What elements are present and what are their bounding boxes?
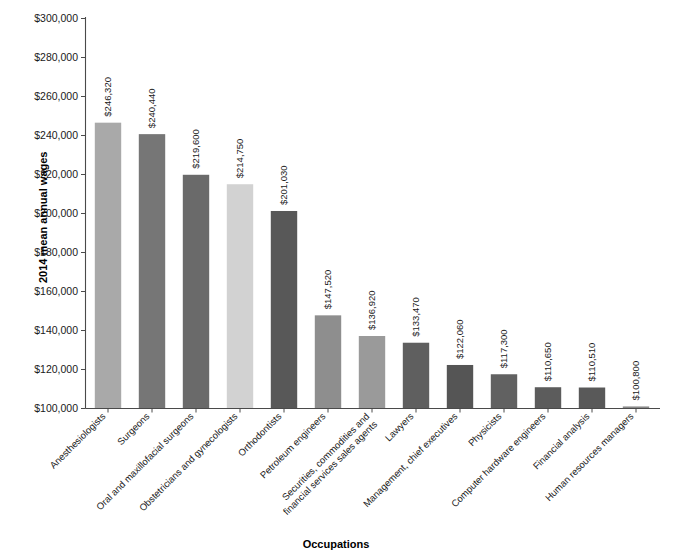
bar (535, 387, 561, 408)
x-axis-category-label: Obstetricians and gynecologists (137, 410, 240, 513)
bar (227, 184, 253, 408)
x-axis-group (86, 409, 661, 413)
x-axis-category-label: Orthodontists (236, 410, 284, 458)
bar-value-label: $240,440 (147, 89, 158, 129)
bar (447, 365, 473, 408)
category-labels-group: AnesthesiologistsSurgeonsOral and maxill… (47, 410, 635, 516)
y-axis-tick-label: $100,000 (34, 402, 78, 414)
x-axis-category-label: Surgeons (115, 410, 152, 447)
y-axis-tick-label: $300,000 (34, 12, 78, 24)
bar-chart: $300,000$280,000$260,000$240,000$220,000… (0, 0, 673, 560)
bar-value-label: $219,600 (191, 129, 202, 169)
bar-value-label: $122,060 (455, 319, 466, 359)
y-axis-tick-marks (81, 19, 86, 409)
bar-value-label: $100,800 (631, 361, 642, 401)
bar-value-label: $246,320 (103, 77, 114, 117)
y-axis-tick-label: $240,000 (34, 129, 78, 141)
y-axis-tick-label: $120,000 (34, 363, 78, 375)
chart-container: $300,000$280,000$260,000$240,000$220,000… (0, 0, 673, 560)
x-axis-category-label-line: Computer hardware engineers (449, 410, 548, 509)
x-axis-title: Occupations (303, 538, 370, 550)
bar-value-label: $136,920 (367, 290, 378, 330)
bar-value-label: $147,520 (323, 270, 334, 310)
y-axis-title: 2014 mean annual wages (37, 152, 49, 283)
x-axis-category-label-line: Human resources managers (543, 410, 636, 503)
bar (403, 343, 429, 408)
bar (139, 134, 165, 408)
bar (623, 406, 649, 408)
x-axis-category-label: Physicists (466, 410, 504, 448)
bar-value-label: $201,030 (279, 165, 290, 205)
bar (491, 374, 517, 408)
bar-value-label: $110,510 (587, 343, 598, 382)
x-axis-category-label-line: Lawyers (383, 410, 416, 443)
x-axis-category-label: Computer hardware engineers (449, 410, 548, 509)
x-axis-category-label-line: Physicists (466, 410, 504, 448)
bars-group (95, 123, 649, 408)
x-axis-category-label-line: Surgeons (115, 410, 152, 447)
bar (183, 175, 209, 408)
bar (315, 315, 341, 408)
x-axis-category-label-line: Orthodontists (236, 410, 284, 458)
bar (271, 211, 297, 408)
bar-value-label: $214,750 (235, 139, 246, 179)
x-axis-category-label-line: Anesthesiologists (47, 410, 107, 470)
x-axis-category-label: Anesthesiologists (47, 410, 107, 470)
x-axis-category-label-line: Securities, commodities and (280, 411, 372, 503)
y-axis-tick-label: $140,000 (34, 324, 78, 336)
bar (359, 336, 385, 408)
y-axis-tick-label: $280,000 (34, 51, 78, 63)
bar (95, 123, 121, 408)
x-axis-category-label-line: Obstetricians and gynecologists (137, 410, 240, 513)
bar (579, 388, 605, 408)
x-axis-category-label: Lawyers (383, 410, 416, 443)
y-axis-tick-label: $160,000 (34, 285, 78, 297)
bar-value-label: $110,650 (543, 342, 554, 381)
x-axis-category-label: Human resources managers (543, 410, 636, 503)
bar-value-label: $133,470 (411, 297, 422, 337)
y-axis-tick-label: $260,000 (34, 90, 78, 102)
bar-value-label: $117,300 (499, 329, 510, 368)
